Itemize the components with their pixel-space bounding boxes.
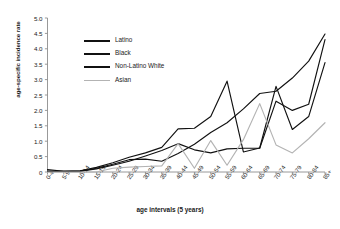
series-line-asian [48, 104, 326, 172]
series-lines [48, 34, 326, 172]
plot-area [0, 0, 340, 229]
chart-container: age-specific incidence rate age interval… [0, 0, 340, 229]
axis-tick-marks [45, 18, 325, 175]
series-line-non-latino-white [48, 34, 326, 171]
